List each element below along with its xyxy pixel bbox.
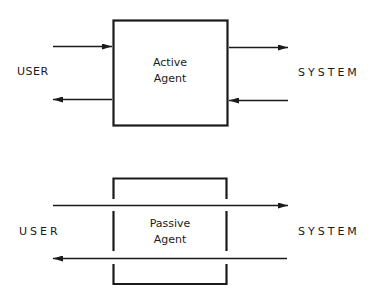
passive-agent-title-line1: Passive <box>113 216 227 232</box>
active-agent-title-line2: Agent <box>113 71 227 87</box>
agent-diagram: USER SYSTEM Active Agent USER SYSTEM Pas… <box>0 0 373 302</box>
active-system-label: SYSTEM <box>298 67 360 79</box>
active-agent-title-line1: Active <box>113 55 227 71</box>
passive-user-label: USER <box>19 226 61 238</box>
diagram-lines <box>0 0 373 302</box>
active-user-label: USER <box>17 66 49 78</box>
passive-agent-title-line2: Agent <box>113 232 227 248</box>
passive-agent-title: Passive Agent <box>113 216 227 248</box>
passive-system-label: SYSTEM <box>298 226 360 238</box>
active-agent-title: Active Agent <box>113 55 227 87</box>
